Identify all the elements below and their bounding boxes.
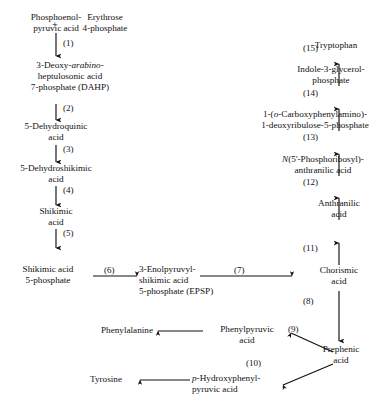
node-shikimic-5p-line1: Shikimic acid bbox=[2, 264, 94, 275]
plus-sign: + bbox=[52, 20, 58, 30]
node-indole-glycerol-line1: Indole-3-glycerol- bbox=[280, 64, 382, 75]
node-dehydroquinic-line2: acid bbox=[4, 132, 108, 143]
step-label-11: (11) bbox=[303, 243, 318, 253]
node-dahp-line2: heptulosonic acid bbox=[4, 71, 136, 82]
step-label-3: (3) bbox=[63, 144, 74, 154]
step-label-6: (6) bbox=[104, 265, 115, 275]
node-phosphoribosyl-anthranilic-acid: N(5'-Phosphoribosyl)- anthranilic acid bbox=[264, 154, 382, 176]
node-shikimic-line1: Shikimic bbox=[16, 206, 96, 217]
step-label-7: (7) bbox=[234, 265, 245, 275]
node-shikimic-5p-line2: 5-phosphate bbox=[2, 275, 94, 286]
node-tryptophan-line1: Tryptophan bbox=[290, 40, 382, 51]
node-erythrose-4-phosphate: Erythrose 4-phosphate bbox=[62, 12, 148, 34]
node-phenylpyruvic-line2: acid bbox=[204, 335, 290, 346]
node-5-dehydroquinic-acid: 5-Dehydroquinic acid bbox=[4, 121, 108, 143]
node-dehydroquinic-line1: 5-Dehydroquinic bbox=[4, 121, 108, 132]
node-erythrose-line2: 4-phosphate bbox=[62, 23, 148, 34]
step-label-14: (14) bbox=[303, 88, 318, 98]
step-label-4: (4) bbox=[63, 185, 74, 195]
step-label-1: (1) bbox=[63, 38, 74, 48]
node-dahp-line1: 3-Deoxy-arabino- bbox=[4, 60, 136, 71]
node-shikimic-acid: Shikimic acid bbox=[16, 206, 96, 228]
node-phenylpyruvic-acid: Phenylpyruvic acid bbox=[204, 324, 290, 346]
step-label-2: (2) bbox=[63, 103, 74, 113]
node-phosphoribosyl-line1: N(5'-Phosphoribosyl)- bbox=[264, 154, 382, 165]
step-label-10: (10) bbox=[246, 358, 261, 368]
node-chorismic-acid: Chorismic acid bbox=[296, 265, 382, 287]
node-tyrosine: Tyrosine bbox=[74, 374, 138, 385]
node-anthranilic-line2: acid bbox=[296, 209, 382, 220]
step-label-8: (8) bbox=[303, 296, 314, 306]
node-dehydroshikimic-line2: acid bbox=[0, 174, 112, 185]
node-prephenic-line1: Prephenic bbox=[300, 344, 382, 355]
node-anthranilic-line1: Anthranilic bbox=[296, 198, 382, 209]
node-shikimic-line2: acid bbox=[16, 217, 96, 228]
node-phenylalanine: Phenylalanine bbox=[92, 325, 162, 336]
node-chorismic-line1: Chorismic bbox=[296, 265, 382, 276]
node-indole-3-glycerol-phosphate: Indole-3-glycerol- phosphate bbox=[280, 64, 382, 86]
node-carboxyphenylamino-line1: 1-(o-Carboxyphenylamino)- bbox=[244, 109, 386, 120]
node-phenylpyruvic-line1: Phenylpyruvic bbox=[204, 324, 290, 335]
node-dahp-line3: 7-phosphate (DAHP) bbox=[4, 82, 136, 93]
step-label-5: (5) bbox=[63, 228, 74, 238]
node-5-dehydroshikimic-acid: 5-Dehydroshikimic acid bbox=[0, 163, 112, 185]
node-epsp-line3: 5-phosphate (EPSP) bbox=[139, 286, 259, 297]
node-phosphoribosyl-line2: anthranilic acid bbox=[264, 165, 382, 176]
node-carboxyphenylamino-deoxyribulose-5-phosphate: 1-(o-Carboxyphenylamino)- 1-deoxyribulos… bbox=[244, 109, 386, 131]
node-tyrosine-line1: Tyrosine bbox=[74, 374, 138, 385]
node-carboxyphenylamino-line2: 1-deoxyribulose-5-phosphate bbox=[244, 120, 386, 131]
node-prephenic-acid: Prephenic acid bbox=[300, 344, 382, 366]
node-erythrose-line1: Erythrose bbox=[62, 12, 148, 23]
shikimate-pathway-diagram: Phosphoenol- pyruvic acid + Erythrose 4-… bbox=[0, 0, 386, 406]
node-tryptophan: Tryptophan bbox=[290, 40, 382, 51]
node-epsp-line2: shikimic acid bbox=[139, 275, 259, 286]
node-hydroxyphenylpyruvic-line2: pyruvic acid bbox=[192, 384, 292, 395]
node-chorismic-line2: acid bbox=[296, 276, 382, 287]
node-indole-glycerol-line2: phosphate bbox=[280, 75, 382, 86]
node-p-hydroxyphenylpyruvic-acid: p-Hydroxyphenyl- pyruvic acid bbox=[192, 373, 292, 395]
node-hydroxyphenylpyruvic-line1: p-Hydroxyphenyl- bbox=[192, 373, 292, 384]
step-label-13: (13) bbox=[303, 132, 318, 142]
node-anthranilic-acid: Anthranilic acid bbox=[296, 198, 382, 220]
node-prephenic-line2: acid bbox=[300, 355, 382, 366]
node-shikimic-acid-5-phosphate: Shikimic acid 5-phosphate bbox=[2, 264, 94, 286]
node-dehydroshikimic-line1: 5-Dehydroshikimic bbox=[0, 163, 112, 174]
node-dahp: 3-Deoxy-arabino- heptulosonic acid 7-pho… bbox=[4, 60, 136, 94]
node-phenylalanine-line1: Phenylalanine bbox=[92, 325, 162, 336]
step-label-12: (12) bbox=[303, 177, 318, 187]
